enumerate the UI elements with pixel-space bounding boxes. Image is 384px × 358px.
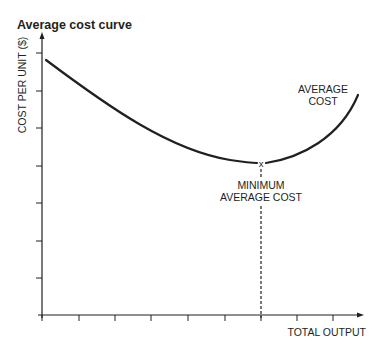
x-axis-ticks: [42, 315, 333, 321]
average-cost-chart: Average cost curve COST PER UNIT ($) TOT…: [0, 0, 384, 358]
minimum-label-line1: MINIMUM: [237, 179, 284, 191]
y-axis-ticks: [36, 53, 42, 278]
minimum-x-marker-icon: x: [259, 158, 264, 169]
chart-title: Average cost curve: [17, 18, 132, 32]
y-axis-label: COST PER UNIT ($): [16, 37, 28, 133]
x-axis-label: TOTAL OUTPUT: [287, 326, 366, 338]
average-cost-curve: [46, 60, 358, 163]
x-axis-arrow-icon: [357, 313, 364, 318]
minimum-label-line2: AVERAGE COST: [220, 191, 303, 203]
average-cost-label-line2: COST: [308, 95, 338, 107]
average-cost-label-line1: AVERAGE: [298, 83, 348, 95]
y-axis-arrow-icon: [40, 32, 45, 39]
